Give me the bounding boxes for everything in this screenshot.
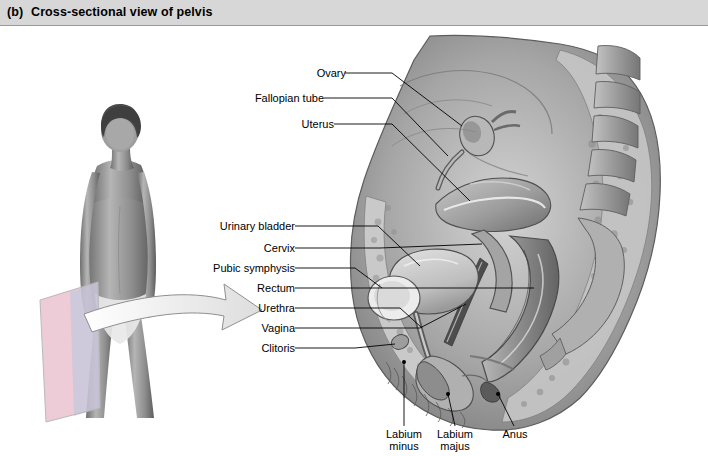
label-ovary: Ovary [218,67,346,79]
figure-title: Cross-sectional view of pelvis [31,5,213,19]
illustration-svg [0,26,708,456]
section-plane [40,282,100,422]
label-urinary-bladder: Urinary bladder [167,220,295,232]
figure-container: (b) Cross-sectional view of pelvis [0,0,708,456]
label-cervix: Cervix [167,242,295,254]
label-labium-majus-line2: majus [425,440,485,452]
label-labium-majus-line1: Labium [425,428,485,440]
label-urethra: Urethra [167,302,295,314]
panel-label: (b) [7,5,23,19]
label-rectum: Rectum [167,282,295,294]
label-uterus: Uterus [206,118,334,130]
label-fallopian-tube: Fallopian tube [196,92,324,104]
label-vagina: Vagina [167,322,295,334]
figure-header-bar: (b) Cross-sectional view of pelvis [0,0,708,26]
pelvis-cross-section [351,35,661,430]
illustration-canvas: Ovary Fallopian tube Uterus Urinary blad… [0,26,708,456]
label-pubic-symphysis: Pubic symphysis [167,262,295,274]
label-anus: Anus [485,428,545,440]
label-clitoris: Clitoris [167,342,295,354]
